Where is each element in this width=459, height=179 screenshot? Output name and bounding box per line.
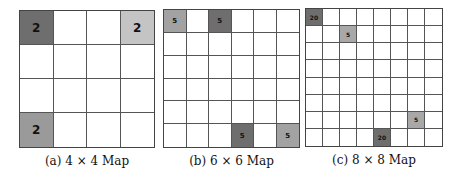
map-cell: [209, 124, 232, 147]
map-cell: [306, 95, 323, 112]
map-cell: [408, 78, 425, 95]
map-cell: [277, 101, 300, 124]
map-cell: [340, 95, 357, 112]
map-cell: [425, 95, 442, 112]
panel-caption-c: (c) 8 × 8 Map: [305, 153, 443, 167]
map-grid-a: 222: [19, 10, 155, 148]
map-cell: [357, 26, 374, 43]
map-cell: [164, 33, 187, 56]
map-cell: [254, 101, 277, 124]
map-cell: [306, 112, 323, 129]
map-cell: [209, 33, 232, 56]
map-cell: [232, 56, 255, 79]
map-cell: [357, 78, 374, 95]
map-cell: [408, 129, 425, 146]
map-cell: [277, 10, 300, 33]
map-cell: [408, 26, 425, 43]
map-cell: [374, 26, 391, 43]
map-cell: [425, 78, 442, 95]
reward-cell: 20: [374, 129, 391, 146]
reward-cell: 5: [408, 112, 425, 129]
map-cell: [54, 11, 88, 45]
map-cell: [277, 33, 300, 56]
map-cell: [254, 33, 277, 56]
map-cell: [323, 26, 340, 43]
map-cell: [323, 78, 340, 95]
map-cell: [391, 43, 408, 60]
map-cell: [357, 60, 374, 77]
map-cell: [187, 56, 210, 79]
map-cell: [232, 10, 255, 33]
reward-cell: 20: [306, 9, 323, 26]
map-cell: [254, 124, 277, 147]
reward-cell: 2: [20, 113, 54, 147]
panel-caption-b: (b) 6 × 6 Map: [163, 154, 300, 168]
map-cell: [323, 129, 340, 146]
map-cell: [323, 43, 340, 60]
map-cell: [209, 56, 232, 79]
map-cell: [87, 45, 121, 79]
map-cell: [20, 45, 54, 79]
map-cell: [87, 11, 121, 45]
map-cell: [254, 10, 277, 33]
map-grid-c: 205520: [305, 8, 443, 147]
map-cell: [391, 95, 408, 112]
map-cell: [187, 101, 210, 124]
map-cell: [164, 124, 187, 147]
map-cell: [277, 56, 300, 79]
map-cell: [391, 129, 408, 146]
map-cell: [54, 45, 88, 79]
map-cell: [323, 95, 340, 112]
map-cell: [209, 101, 232, 124]
map-cell: [164, 56, 187, 79]
map-cell: [54, 79, 88, 113]
reward-cell: 5: [340, 26, 357, 43]
map-cell: [306, 26, 323, 43]
map-cell: [121, 113, 155, 147]
map-cell: [408, 60, 425, 77]
map-cell: [425, 112, 442, 129]
map-cell: [425, 43, 442, 60]
map-cell: [425, 129, 442, 146]
map-cell: [408, 9, 425, 26]
map-cell: [391, 78, 408, 95]
map-cell: [209, 79, 232, 102]
map-cell: [306, 129, 323, 146]
map-cell: [187, 124, 210, 147]
map-cell: [232, 101, 255, 124]
map-cell: [254, 56, 277, 79]
map-cell: [391, 60, 408, 77]
map-cell: [357, 95, 374, 112]
map-grid-b: 5555: [163, 9, 300, 148]
map-cell: [54, 113, 88, 147]
map-cell: [425, 26, 442, 43]
map-cell: [306, 78, 323, 95]
map-cell: [306, 60, 323, 77]
map-cell: [340, 9, 357, 26]
reward-cell: 5: [277, 124, 300, 147]
map-cell: [164, 101, 187, 124]
map-cell: [374, 43, 391, 60]
map-cell: [340, 43, 357, 60]
map-cell: [187, 33, 210, 56]
map-cell: [340, 129, 357, 146]
map-cell: [121, 45, 155, 79]
map-cell: [425, 9, 442, 26]
map-cell: [187, 79, 210, 102]
map-cell: [87, 79, 121, 113]
map-cell: [232, 33, 255, 56]
map-cell: [374, 95, 391, 112]
map-cell: [374, 9, 391, 26]
reward-cell: 5: [209, 10, 232, 33]
map-cell: [357, 129, 374, 146]
map-cell: [340, 112, 357, 129]
map-cell: [121, 79, 155, 113]
map-cell: [357, 112, 374, 129]
map-cell: [357, 9, 374, 26]
map-cell: [254, 79, 277, 102]
map-cell: [391, 26, 408, 43]
map-cell: [323, 112, 340, 129]
map-cell: [391, 112, 408, 129]
map-cell: [425, 60, 442, 77]
reward-cell: 2: [121, 11, 155, 45]
